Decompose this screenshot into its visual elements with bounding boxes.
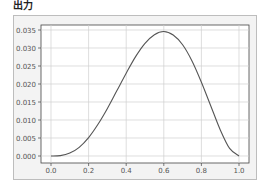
y-axis-ticks: 0.0000.0050.0100.0150.0200.0250.0300.035 [16,27,41,161]
y-tick-label: 0.005 [16,135,36,143]
y-tick-label: 0.015 [16,99,36,107]
x-axis-ticks: 0.00.20.40.60.81.0 [45,163,244,175]
y-tick-label: 0.035 [16,27,36,35]
x-tick-label: 0.6 [158,167,170,175]
line-chart: 0.0000.0050.0100.0150.0200.0250.0300.035… [0,0,269,194]
y-tick-label: 0.000 [16,153,36,161]
x-tick-label: 0.2 [83,167,94,175]
y-tick-label: 0.020 [16,81,36,89]
x-tick-label: 0.8 [196,167,207,175]
x-tick-label: 0.0 [45,167,56,175]
y-tick-label: 0.025 [16,63,36,71]
y-tick-label: 0.030 [16,45,36,53]
x-tick-label: 1.0 [233,167,244,175]
plot-area [41,25,249,163]
y-tick-label: 0.010 [16,117,36,125]
x-tick-label: 0.4 [121,167,133,175]
